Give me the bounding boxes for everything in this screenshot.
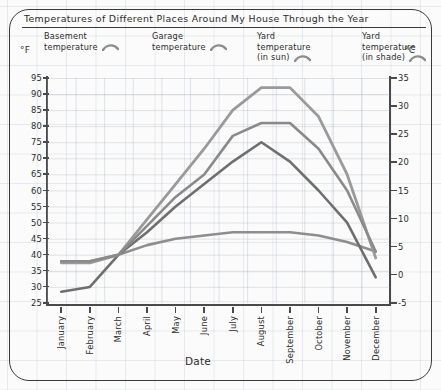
- x-axis-label-january: January: [56, 316, 66, 349]
- y-tick-left-55: 55: [18, 202, 42, 212]
- y-tick-right-35: 35: [398, 73, 424, 83]
- legend-label-line2: temperature: [44, 42, 119, 53]
- x-tick-mark-august: [261, 307, 263, 313]
- y-tick-left-90: 90: [18, 89, 42, 99]
- left-axis-unit: °F: [20, 45, 30, 55]
- y-tick-mark-left: [43, 190, 49, 192]
- y-tick-left-30: 30: [18, 282, 42, 292]
- x-tick-mark-july: [232, 307, 234, 313]
- legend-label-line1: Basement: [44, 31, 119, 42]
- y-tick-left-60: 60: [18, 186, 42, 196]
- y-tick-mark-right: [391, 274, 397, 276]
- legend-label-line2: temperature: [362, 42, 426, 53]
- x-axis-label-december: December: [371, 316, 381, 361]
- y-tick-right-0: 0: [398, 270, 424, 280]
- y-tick-mark-right: [391, 190, 397, 192]
- legend-label-line3: (in shade): [362, 52, 426, 63]
- x-tick-mark-april: [146, 307, 148, 313]
- y-tick-left-50: 50: [18, 218, 42, 228]
- y-tick-left-85: 85: [18, 105, 42, 115]
- y-tick-mark-left: [43, 125, 49, 127]
- y-tick-mark-left: [43, 157, 49, 159]
- x-tick-mark-october: [318, 307, 320, 313]
- y-tick-left-80: 80: [18, 121, 42, 131]
- x-axis-label-february: February: [85, 316, 95, 354]
- y-tick-right--5: -5: [398, 298, 424, 308]
- y-tick-mark-left: [43, 173, 49, 175]
- y-tick-mark-left: [43, 254, 49, 256]
- legend-entry-2: Garagetemperature: [152, 31, 227, 52]
- x-tick-mark-september: [289, 307, 291, 313]
- y-tick-left-70: 70: [18, 153, 42, 163]
- x-axis-label-november: November: [342, 316, 352, 361]
- y-tick-mark-left: [43, 222, 49, 224]
- y-tick-mark-left: [43, 77, 49, 79]
- y-tick-left-95: 95: [18, 73, 42, 83]
- legend-entry-1: Basementtemperature: [44, 31, 119, 52]
- y-tick-right-5: 5: [398, 242, 424, 252]
- y-tick-right-25: 25: [398, 129, 424, 139]
- y-tick-left-75: 75: [18, 137, 42, 147]
- y-tick-left-65: 65: [18, 169, 42, 179]
- legend-label-line2: temperature: [257, 42, 311, 53]
- legend-entry-4: Yardtemperature(in shade): [362, 31, 426, 63]
- y-tick-mark-left: [43, 109, 49, 111]
- y-tick-mark-right: [391, 218, 397, 220]
- y-tick-mark-right: [391, 246, 397, 248]
- legend-entry-3: Yardtemperature(in sun): [257, 31, 311, 63]
- y-tick-left-35: 35: [18, 266, 42, 276]
- x-tick-mark-february: [89, 307, 91, 313]
- legend-label-line1: Yard: [362, 31, 426, 42]
- y-tick-mark-right: [391, 302, 397, 304]
- y-tick-left-40: 40: [18, 250, 42, 260]
- chart-legend: BasementtemperatureGaragetemperatureYard…: [22, 31, 426, 73]
- y-tick-mark-left: [43, 93, 49, 95]
- x-axis-label-october: October: [314, 316, 324, 351]
- x-tick-mark-november: [346, 307, 348, 313]
- y-tick-left-25: 25: [18, 298, 42, 308]
- y-tick-mark-left: [43, 286, 49, 288]
- x-axis-label-september: September: [285, 316, 295, 364]
- x-axis-label-march: March: [113, 316, 123, 342]
- x-axis-label-june: June: [199, 316, 209, 335]
- notebook-sheet: Temperatures of Different Places Around …: [0, 0, 441, 390]
- legend-label-line1: Garage: [152, 31, 227, 42]
- title-divider: [22, 27, 426, 28]
- y-tick-left-45: 45: [18, 234, 42, 244]
- legend-label-line2: temperature: [152, 42, 227, 53]
- y-tick-right-15: 15: [398, 186, 424, 196]
- x-axis-label-july: July: [228, 316, 238, 332]
- legend-label-line1: Yard: [257, 31, 311, 42]
- y-tick-mark-left: [43, 238, 49, 240]
- series-lines: [47, 78, 390, 303]
- x-tick-mark-may: [175, 307, 177, 313]
- y-tick-mark-left: [43, 206, 49, 208]
- y-tick-mark-left: [43, 302, 49, 304]
- y-tick-mark-left: [43, 270, 49, 272]
- x-axis-label-may: May: [171, 316, 181, 334]
- x-axis-title: Date: [185, 355, 211, 367]
- x-tick-mark-march: [118, 307, 120, 313]
- y-tick-mark-right: [391, 105, 397, 107]
- x-axis-label-april: April: [142, 316, 152, 336]
- right-axis-unit: °C: [404, 45, 415, 55]
- legend-label-line3: (in sun): [257, 52, 311, 63]
- x-axis-label-august: August: [256, 316, 266, 346]
- x-tick-mark-june: [203, 307, 205, 313]
- y-tick-right-20: 20: [398, 157, 424, 167]
- x-axis-spine: [46, 304, 391, 306]
- y-tick-mark-left: [43, 141, 49, 143]
- y-tick-mark-right: [391, 161, 397, 163]
- y-tick-right-10: 10: [398, 214, 424, 224]
- series-line-yard-temperature-in-shade: [61, 123, 375, 261]
- plot-area: [47, 78, 390, 303]
- y-tick-mark-right: [391, 133, 397, 135]
- x-tick-mark-december: [375, 307, 377, 313]
- y-tick-right-30: 30: [398, 101, 424, 111]
- chart-title: Temperatures of Different Places Around …: [24, 13, 424, 24]
- y-tick-mark-right: [391, 77, 397, 79]
- x-tick-mark-january: [60, 307, 62, 313]
